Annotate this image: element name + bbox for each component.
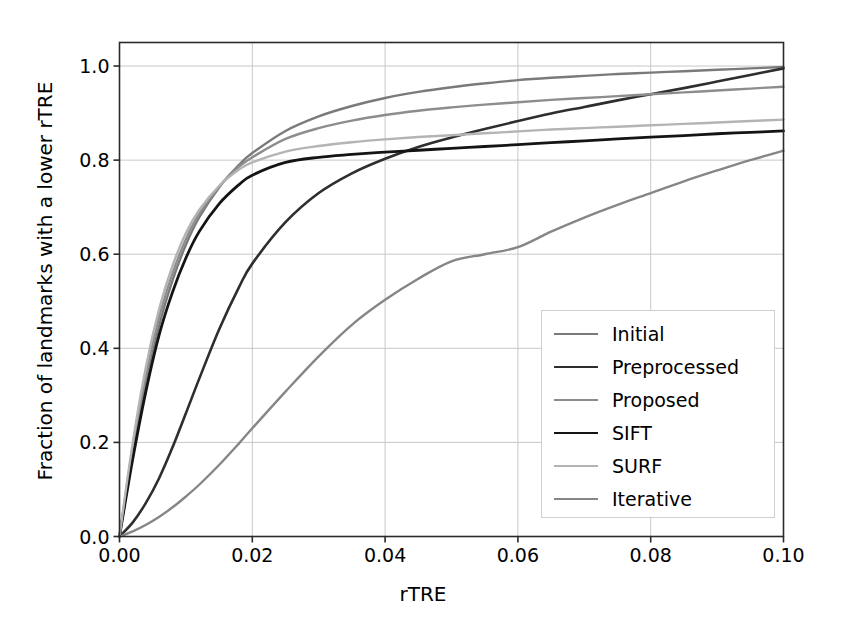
- legend-swatch-line: [554, 333, 598, 335]
- legend-label: SIFT: [612, 424, 652, 443]
- y-tick-label: 0.0: [64, 526, 110, 548]
- x-tick-label: 0.10: [762, 544, 804, 566]
- chart-figure: 0.000.020.040.060.080.10 0.00.20.40.60.8…: [0, 0, 846, 620]
- legend-swatch-line: [554, 399, 598, 401]
- y-tick-label: 0.4: [64, 337, 110, 359]
- y-tick-label: 1.0: [64, 55, 110, 77]
- legend-item-surf[interactable]: SURF: [542, 449, 776, 483]
- legend-swatch-line: [554, 465, 598, 467]
- x-tick-label: 0.02: [231, 544, 273, 566]
- chart-legend[interactable]: InitialPreprocessedProposedSIFTSURFItera…: [541, 310, 775, 518]
- y-tick-label: 0.6: [64, 243, 110, 265]
- x-tick-label: 0.06: [497, 544, 539, 566]
- legend-label: Iterative: [612, 490, 692, 509]
- legend-item-preprocessed[interactable]: Preprocessed: [542, 350, 776, 384]
- y-axis-label-wrapper: Fraction of landmarks with a lower rTRE: [33, 1, 59, 561]
- legend-label: Proposed: [612, 391, 699, 410]
- legend-item-sift[interactable]: SIFT: [542, 416, 776, 450]
- y-tick-label: 0.2: [64, 431, 110, 453]
- x-tick-label: 0.04: [364, 544, 406, 566]
- legend-label: Initial: [612, 325, 665, 344]
- x-tick-label: 0.08: [630, 544, 672, 566]
- legend-swatch-line: [554, 366, 598, 368]
- y-tick-label: 0.8: [64, 149, 110, 171]
- y-axis-label: Fraction of landmarks with a lower rTRE: [33, 82, 57, 481]
- legend-label: SURF: [612, 457, 662, 476]
- legend-item-initial[interactable]: Initial: [542, 317, 776, 351]
- legend-swatch-line: [554, 498, 598, 500]
- legend-item-iterative[interactable]: Iterative: [542, 482, 776, 516]
- x-axis-label: rTRE: [0, 582, 846, 606]
- legend-item-proposed[interactable]: Proposed: [542, 383, 776, 417]
- legend-swatch-line: [554, 432, 598, 434]
- legend-label: Preprocessed: [612, 358, 739, 377]
